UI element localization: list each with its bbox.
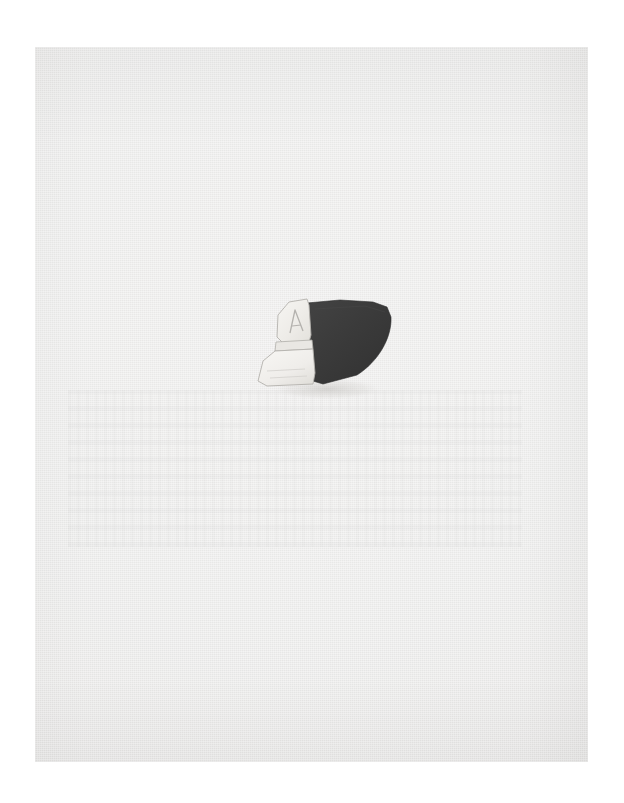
screenshot-root bbox=[0, 0, 624, 803]
pottery-sherd-group bbox=[245, 285, 400, 405]
reverse-side-showthrough bbox=[68, 390, 521, 547]
fragment-lower-left-pale-sherd bbox=[258, 349, 315, 386]
sherd-illustration bbox=[245, 285, 400, 405]
fragment-right-dark-sherd bbox=[305, 300, 391, 384]
fragment-upper-left-pale-sherd bbox=[277, 299, 311, 343]
